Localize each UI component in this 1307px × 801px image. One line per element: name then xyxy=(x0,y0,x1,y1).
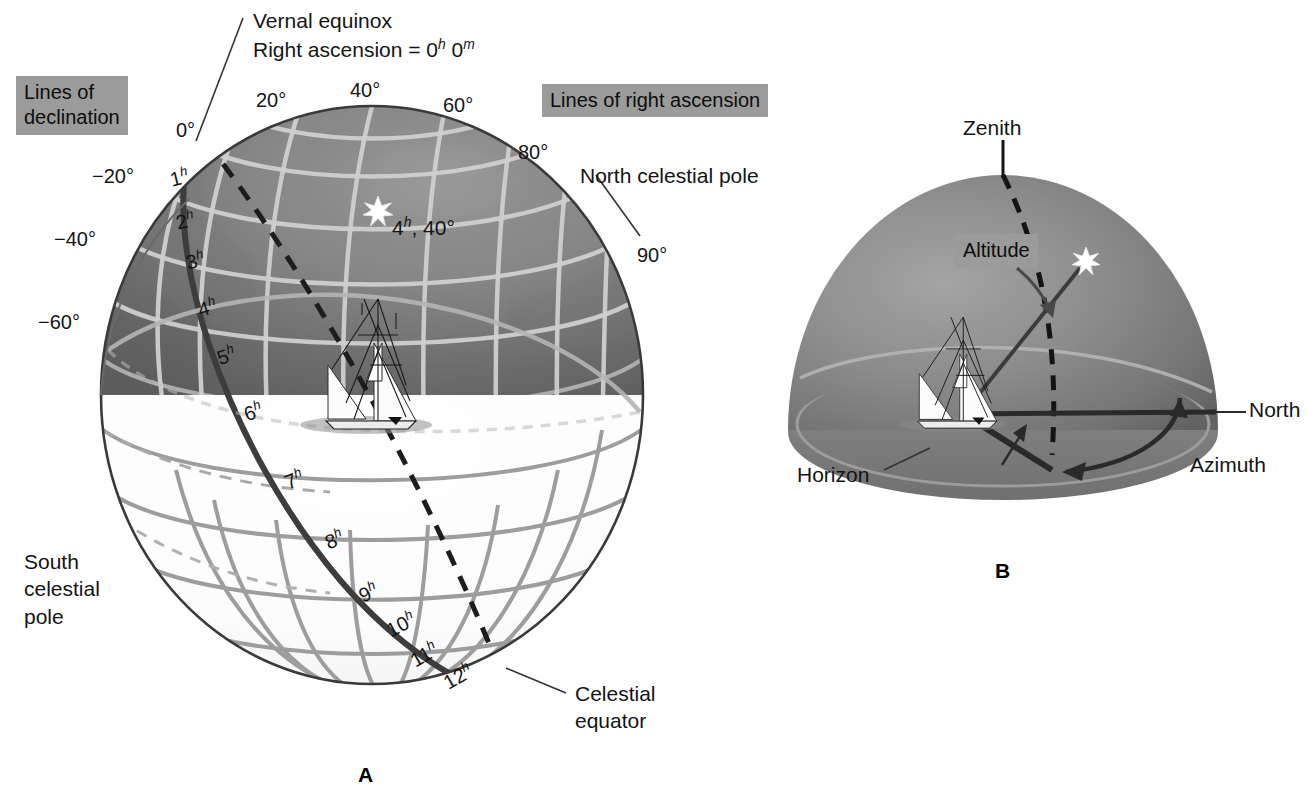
callout-south-celestial-pole: South celestial pole xyxy=(24,548,100,630)
declination-tick-20: 20° xyxy=(256,88,286,112)
label-north: North xyxy=(1249,397,1300,423)
label-zenith: Zenith xyxy=(963,115,1021,141)
legend-lines-of-declination: Lines of declination xyxy=(16,76,128,135)
label-altitude: Altitude xyxy=(955,234,1038,267)
legend-declination-line1: Lines of xyxy=(24,80,120,105)
callout-celestial-equator: Celestial equator xyxy=(575,680,656,735)
callout-north-celestial-pole: North celestial pole xyxy=(580,163,759,189)
figure-canvas: Lines of declination Lines of right asce… xyxy=(0,0,1307,801)
panel-b-letter: B xyxy=(995,558,1010,584)
south-pole-line1: South xyxy=(24,548,100,575)
declination-tick-80: 80° xyxy=(518,140,548,164)
star-ra-value: 4 xyxy=(392,216,404,239)
legend-declination-line2: declination xyxy=(24,105,120,130)
panel-a-letter: A xyxy=(358,762,373,788)
callout-vernal-equinox-line2: Right ascension = 0h 0m xyxy=(253,36,475,63)
label-horizon: Horizon xyxy=(797,462,869,488)
label-azimuth: Azimuth xyxy=(1190,452,1266,478)
vernal-ra-mid: 0 xyxy=(446,38,464,61)
declination-tick-0: 0° xyxy=(176,118,195,142)
star-dec-value: , 40° xyxy=(411,216,454,239)
vernal-ra-prefix: Right ascension = 0 xyxy=(253,38,438,61)
declination-tick-60: 60° xyxy=(443,93,473,117)
south-pole-line3: pole xyxy=(24,603,100,630)
star-coordinates-label: 4h, 40° xyxy=(392,214,455,241)
declination-tick-minus40: −40° xyxy=(54,227,96,251)
declination-tick-40: 40° xyxy=(350,78,380,102)
vernal-ra-hour-sup: h xyxy=(438,36,446,52)
vernal-ra-minute-sup: m xyxy=(463,36,475,52)
legend-lines-of-right-ascension: Lines of right ascension xyxy=(542,84,768,117)
callout-vernal-equinox-line1: Vernal equinox xyxy=(253,8,392,34)
south-pole-line2: celestial xyxy=(24,575,100,602)
declination-tick-minus60: −60° xyxy=(38,310,80,334)
celestial-equator-line2: equator xyxy=(575,707,656,734)
declination-tick-minus20: −20° xyxy=(92,164,134,188)
panel-b-dome xyxy=(788,140,1246,500)
sky-dome xyxy=(788,175,1218,430)
celestial-equator-line1: Celestial xyxy=(575,680,656,707)
declination-tick-90: 90° xyxy=(637,243,667,267)
